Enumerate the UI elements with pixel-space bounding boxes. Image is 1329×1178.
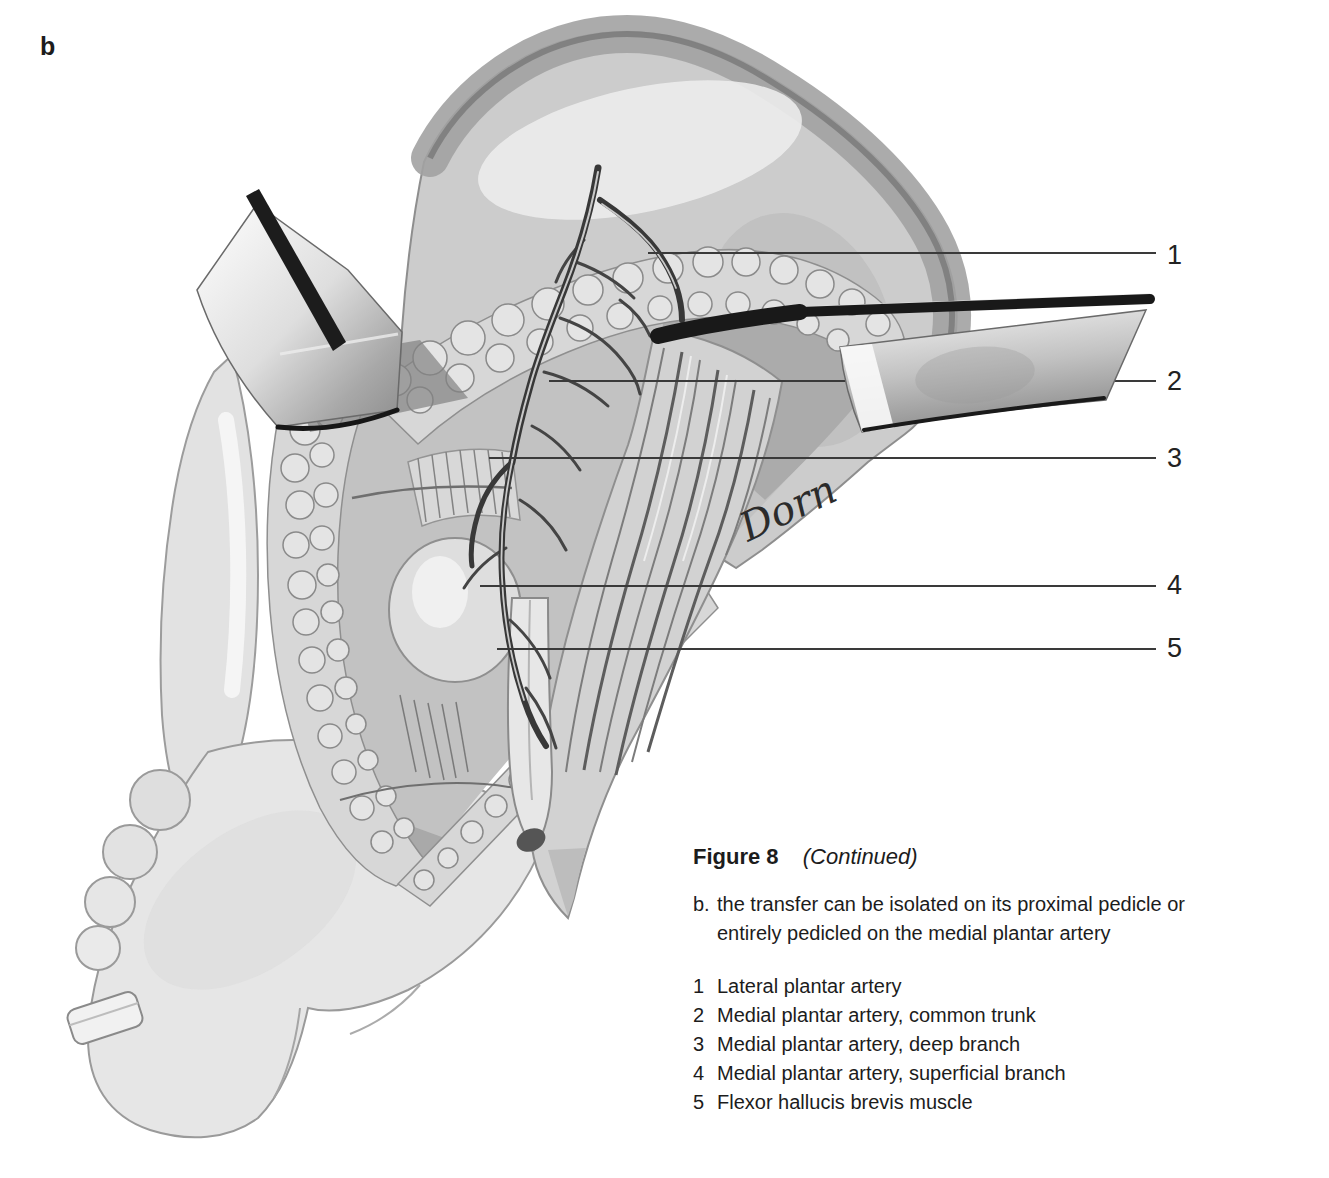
legend-row: 1 Lateral plantar artery (693, 972, 1195, 1001)
legend-number: 2 (693, 1001, 717, 1030)
legend-number: 5 (693, 1088, 717, 1117)
caption-item-b: b. the transfer can be isolated on its p… (693, 890, 1195, 948)
callout-number-5: 5 (1167, 633, 1182, 663)
callout-number-1: 1 (1167, 240, 1182, 270)
caption-item-line-2: entirely pedicled on the medial plantar … (717, 919, 1195, 948)
caption-item-line-1: the transfer can be isolated on its prox… (717, 890, 1195, 919)
figure-note: (Continued) (803, 844, 918, 869)
figure-caption: Figure 8 (Continued) b. the transfer can… (693, 844, 1195, 1117)
legend-number: 3 (693, 1030, 717, 1059)
legend-label: Flexor hallucis brevis muscle (717, 1088, 973, 1117)
figure-label: Figure 8 (693, 844, 779, 869)
legend-label: Lateral plantar artery (717, 972, 902, 1001)
legend-row: 3 Medial plantar artery, deep branch (693, 1030, 1195, 1059)
legend-number: 4 (693, 1059, 717, 1088)
legend-row: 5 Flexor hallucis brevis muscle (693, 1088, 1195, 1117)
legend-label: Medial plantar artery, common trunk (717, 1001, 1036, 1030)
legend-number: 1 (693, 972, 717, 1001)
legend-row: 4 Medial plantar artery, superficial bra… (693, 1059, 1195, 1088)
legend-label: Medial plantar artery, deep branch (717, 1030, 1020, 1059)
legend-row: 2 Medial plantar artery, common trunk (693, 1001, 1195, 1030)
legend-list: 1 Lateral plantar artery 2 Medial planta… (693, 972, 1195, 1117)
callout-numbers: 1 2 3 4 5 (1167, 240, 1182, 663)
figure-caption-heading: Figure 8 (Continued) (693, 844, 1195, 870)
callout-number-4: 4 (1167, 570, 1182, 600)
legend-label: Medial plantar artery, superficial branc… (717, 1059, 1066, 1088)
forefoot-and-toes (65, 740, 548, 1137)
caption-item-marker: b. (693, 890, 717, 948)
callout-number-2: 2 (1167, 366, 1182, 396)
callout-number-3: 3 (1167, 443, 1182, 473)
